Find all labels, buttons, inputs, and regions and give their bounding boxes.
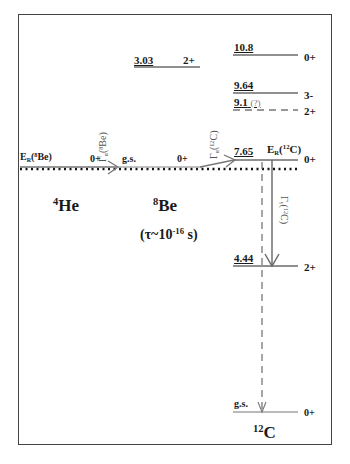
be8-energy-3.03: 3.03 — [134, 55, 153, 66]
c12-spin-4.44: 2+ — [304, 262, 316, 273]
c12-energy-10.8: 10.8 — [234, 42, 253, 53]
he4-nucleus-label: 4He — [53, 197, 79, 214]
er-be8-label: ER(8Be) — [20, 152, 52, 162]
c12-spin-10.8: 0+ — [304, 52, 316, 63]
alpha-capture-be8-arrow — [20, 161, 118, 174]
er-c12-label: ER(12C) — [267, 144, 301, 155]
energy-level-diagram: 10.8 0+ 9.64 3- 9.1 (?) 2+ 7.65 0+ 4.44 … — [0, 0, 350, 464]
c12-energy-9.64: 9.64 — [234, 80, 253, 91]
be8-spin-3.03: 2+ — [183, 55, 195, 66]
c12-spin-gs: 0+ — [304, 408, 315, 418]
gamma-gamma-c12-label: Γγ(12C) — [279, 196, 290, 224]
c12-spin-9.1: 2+ — [304, 106, 316, 117]
c12-spin-9.64: 3- — [304, 90, 313, 101]
be8-lifetime: (τ~10-16 s) — [140, 228, 198, 242]
be8-energy-gs: g.s. — [122, 154, 136, 164]
c12-energy-gs: g.s. — [234, 399, 248, 409]
be8-spin-gs: 0+ — [177, 154, 188, 164]
c12-energy-7.65: 7.65 — [234, 146, 253, 157]
gamma-alpha-be8-label: Γα(8Be) — [97, 132, 108, 162]
c12-energy-4.44: 4.44 — [234, 253, 253, 264]
gamma-alpha-c12-label: Γα(12C) — [208, 131, 219, 159]
c12-nucleus-label: 12C — [253, 424, 276, 441]
c12-spin-7.65: 0+ — [304, 154, 316, 165]
be8-nucleus-label: 8Be — [153, 197, 177, 214]
c12-energy-9.1: 9.1 (?) — [234, 97, 261, 108]
uncertain-note: (?) — [251, 98, 261, 108]
